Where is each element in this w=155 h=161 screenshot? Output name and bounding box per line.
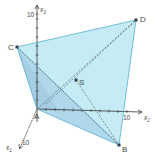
point-s-label: S	[79, 78, 84, 87]
pyramid-diagram: 10 x3 10 x2 10 x	[0, 0, 155, 161]
x2-tick-label: 10	[123, 114, 131, 121]
point-d-marker	[135, 19, 138, 22]
point-s-marker	[75, 79, 78, 82]
point-a-label: A	[34, 112, 40, 121]
point-c-marker	[16, 46, 19, 49]
x3-tick-label: 10	[27, 11, 35, 18]
x1-tick-label: 10	[22, 139, 30, 146]
point-b-label: B	[122, 145, 127, 154]
x1-axis-label: x1	[5, 144, 12, 153]
point-c-label: C	[8, 43, 14, 52]
point-b-marker	[118, 144, 121, 147]
x2-axis-label: x2	[143, 114, 150, 123]
point-d-label: D	[140, 15, 146, 24]
x3-axis-label: x3	[39, 6, 46, 15]
